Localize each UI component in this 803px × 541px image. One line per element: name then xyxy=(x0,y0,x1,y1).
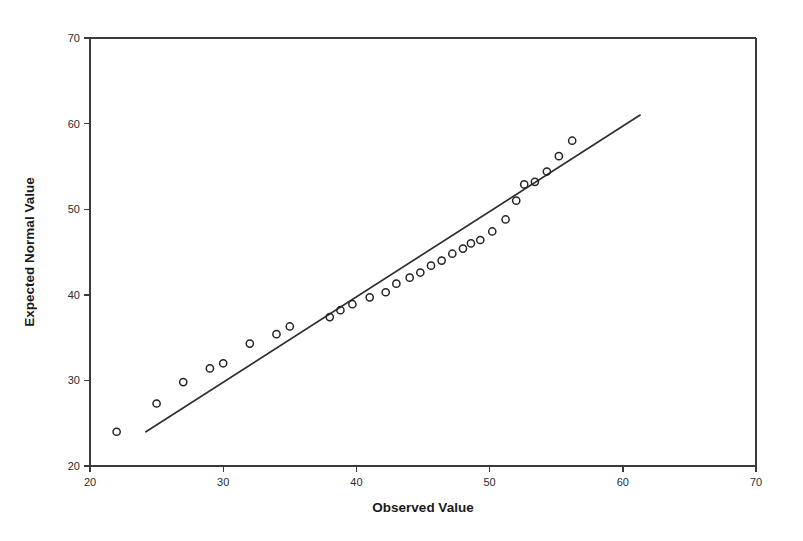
scatter-point xyxy=(180,379,187,386)
y-axis-title: Expected Normal Value xyxy=(22,177,37,327)
scatter-point xyxy=(393,280,400,287)
y-tick-label: 60 xyxy=(68,118,80,130)
y-tick-label: 70 xyxy=(68,32,80,44)
scatter-point xyxy=(569,137,576,144)
scatter-point xyxy=(286,323,293,330)
scatter-point xyxy=(220,360,227,367)
plot-frame xyxy=(90,38,756,466)
scatter-point xyxy=(417,269,424,276)
y-tick-label: 50 xyxy=(68,203,80,215)
x-axis-title: Observed Value xyxy=(372,500,474,515)
scatter-point xyxy=(349,301,356,308)
scatter-point xyxy=(206,365,213,372)
x-tick-label: 70 xyxy=(750,476,762,488)
y-axis-ticks: 203040506070 xyxy=(68,32,90,472)
x-axis-ticks: 203040506070 xyxy=(84,466,762,488)
x-tick-label: 50 xyxy=(483,476,495,488)
y-tick-label: 30 xyxy=(68,374,80,386)
scatter-point xyxy=(438,257,445,264)
x-tick-label: 20 xyxy=(84,476,96,488)
reference-line xyxy=(146,115,640,432)
x-tick-label: 40 xyxy=(350,476,362,488)
scatter-point xyxy=(427,262,434,269)
scatter-point xyxy=(382,289,389,296)
data-points xyxy=(113,137,576,435)
scatter-point xyxy=(477,236,484,243)
scatter-point xyxy=(459,245,466,252)
normal-reference-line xyxy=(146,115,640,432)
scatter-point xyxy=(521,181,528,188)
x-tick-label: 30 xyxy=(217,476,229,488)
scatter-point xyxy=(246,340,253,347)
scatter-point xyxy=(153,400,160,407)
y-tick-label: 40 xyxy=(68,289,80,301)
scatter-point xyxy=(366,294,373,301)
scatter-point xyxy=(113,428,120,435)
scatter-point xyxy=(406,274,413,281)
scatter-point xyxy=(489,228,496,235)
scatter-point xyxy=(467,240,474,247)
scatter-point xyxy=(502,216,509,223)
scatter-point xyxy=(273,331,280,338)
y-tick-label: 20 xyxy=(68,460,80,472)
scatter-point xyxy=(449,250,456,257)
qq-plot-canvas: 203040506070 203040506070 Observed Value… xyxy=(0,0,803,541)
scatter-point xyxy=(555,153,562,160)
scatter-point xyxy=(513,197,520,204)
qq-plot-figure: 203040506070 203040506070 Observed Value… xyxy=(0,0,803,541)
x-tick-label: 60 xyxy=(617,476,629,488)
